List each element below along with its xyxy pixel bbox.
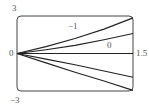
curve-2-line (17, 34, 133, 54)
y-tick-origin: 0 (9, 49, 14, 58)
curve-label-zero: 0 (107, 41, 112, 50)
plot-canvas (0, 0, 149, 108)
y-tick-top: 3 (12, 4, 17, 13)
curve-5-line (17, 54, 133, 91)
curve-4-line (17, 54, 133, 78)
x-tick-right: 1.5 (136, 49, 147, 58)
curve-label-minus-one: −1 (68, 22, 78, 31)
y-tick-bottom: −3 (10, 96, 20, 105)
